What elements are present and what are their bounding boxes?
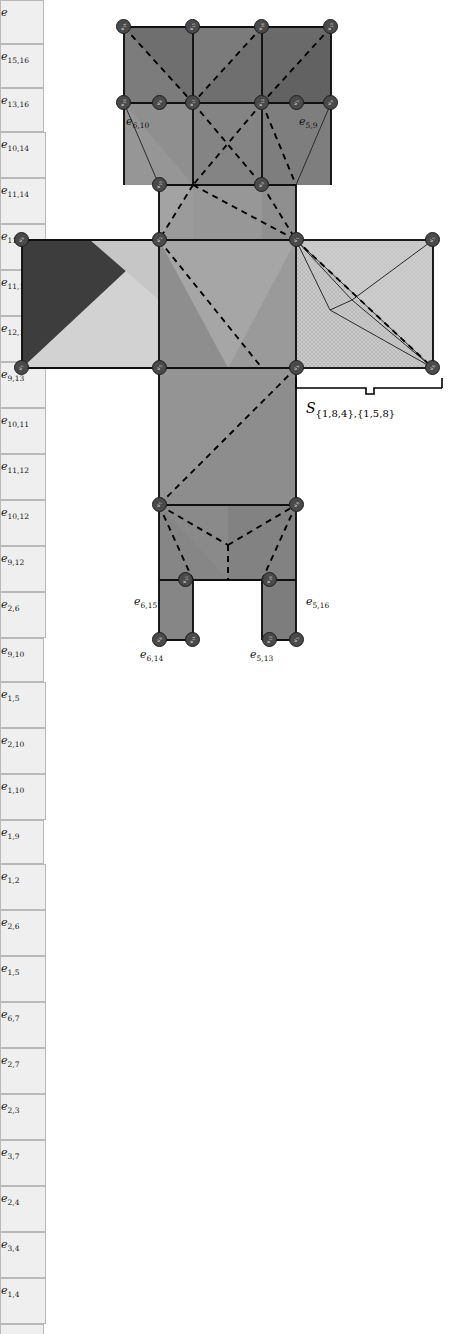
vertex-label: v8 xyxy=(429,365,437,370)
edge-label: e1,8 xyxy=(1,1330,19,1334)
edge-label-flat: e5,13 xyxy=(250,648,273,663)
vertex-node[interactable]: v5 xyxy=(289,632,304,647)
edge-label-bubble: e3,4 xyxy=(0,1232,46,1278)
vertex-label: v9 xyxy=(327,100,335,105)
edge-label: e6,10 xyxy=(126,115,149,128)
vertex-node[interactable]: v6 xyxy=(152,632,167,647)
vertex-node[interactable]: v7 xyxy=(152,497,167,512)
edge-label-plain: e5,9 xyxy=(299,110,313,160)
edge-label: e1,2 xyxy=(1,870,19,883)
vertex-label: v16 xyxy=(258,23,266,30)
vertex-node[interactable]: v14 xyxy=(185,632,200,647)
vertex-node[interactable]: v10 xyxy=(116,95,131,110)
edge-label: e1,10 xyxy=(1,780,24,793)
vertex-node[interactable]: v8 xyxy=(289,497,304,512)
vertex-label: v10 xyxy=(120,99,128,106)
edge-label: e3,7 xyxy=(1,1146,19,1159)
vertex-label: v6 xyxy=(156,637,164,642)
edge-label-bubble: e2,4 xyxy=(0,1186,46,1232)
vertex-label: v14 xyxy=(120,23,128,30)
edge-label: e2,3 xyxy=(1,1100,19,1113)
edge-label-flat: e6,14 xyxy=(140,648,163,663)
vertex-label: v8 xyxy=(293,502,301,507)
edge-label-bubble: e1,4 xyxy=(0,1278,46,1324)
vertex-node[interactable]: v5 xyxy=(425,232,440,247)
vertex-label: v11 xyxy=(189,99,197,106)
vertex-node[interactable]: v13 xyxy=(323,19,338,34)
edge-label-bubble: e2,7 xyxy=(0,1048,46,1094)
edge-label-plain: e6,15 xyxy=(134,590,148,640)
brace-annotation-label: S{1,8,4},{1,5,8} xyxy=(306,400,395,419)
edge-label: e1,5 xyxy=(1,962,19,975)
vertex-label: v6 xyxy=(156,100,164,105)
vertex-node[interactable]: v16 xyxy=(262,572,277,587)
edge-label: e2,4 xyxy=(1,1192,19,1205)
edge-label-plain: e6,10 xyxy=(126,110,140,160)
vertex-node[interactable]: v16 xyxy=(254,19,269,34)
edge-label: e1,9 xyxy=(1,826,19,839)
vertex-node[interactable]: v4 xyxy=(289,360,304,375)
edge-label: e1,4 xyxy=(1,1284,19,1297)
edge-label-bubble: e2,10 xyxy=(0,728,46,774)
edge-label-bubble: e6,7 xyxy=(0,1002,46,1048)
vertex-label: v3 xyxy=(156,365,164,370)
vertex-node[interactable]: v10 xyxy=(152,177,167,192)
vertex-label: v10 xyxy=(156,181,164,188)
edge-label: e3,4 xyxy=(1,1238,19,1251)
edge-label: e2,7 xyxy=(1,1054,19,1067)
vertex-node[interactable]: v12 xyxy=(254,95,269,110)
vertex-node[interactable]: v5 xyxy=(289,95,304,110)
vertex-label: v13 xyxy=(327,23,335,30)
vertex-node[interactable]: v15 xyxy=(185,19,200,34)
vertex-label: v7 xyxy=(18,365,26,370)
vertex-label: v14 xyxy=(189,636,197,643)
vertex-label: v9 xyxy=(258,182,266,187)
vertex-node[interactable]: v6 xyxy=(14,232,29,247)
edge-label-plain: e5,16 xyxy=(306,590,320,640)
vertex-label: v15 xyxy=(189,23,197,30)
edge-label: e6,15 xyxy=(134,595,157,608)
edge-label-bubble: e2,3 xyxy=(0,1094,46,1140)
vertex-node[interactable]: v2 xyxy=(152,232,167,247)
brace-annotation-sub: {1,8,4},{1,5,8} xyxy=(316,408,396,419)
vertex-node[interactable]: v9 xyxy=(254,177,269,192)
brace-bracket xyxy=(294,376,450,400)
vertex-label: v4 xyxy=(293,365,301,370)
vertex-node[interactable]: v8 xyxy=(425,360,440,375)
vertex-label: v6 xyxy=(18,237,26,242)
brace-annotation-base: S xyxy=(306,400,316,416)
edge-label-bubble: e2,6 xyxy=(0,910,46,956)
vertex-node[interactable]: v6 xyxy=(152,95,167,110)
vertex-node[interactable]: v7 xyxy=(14,360,29,375)
vertex-label: v7 xyxy=(156,502,164,507)
edge-label-bubble: e1,8 xyxy=(0,1324,44,1334)
vertex-label: v5 xyxy=(293,637,301,642)
edge-label-bubble: e1,5 xyxy=(0,956,46,1002)
edge-label-bubble: e1,5 xyxy=(0,682,46,728)
vertex-label: v12 xyxy=(258,99,266,106)
edge-label: e6,7 xyxy=(1,1008,19,1021)
vertex-label: v15 xyxy=(182,576,190,583)
edge-label: e5,9 xyxy=(299,115,317,128)
vertex-node[interactable]: v14 xyxy=(116,19,131,34)
edge-label-bubble: e1,2 xyxy=(0,864,46,910)
edge-label: e2,10 xyxy=(1,734,24,747)
vertex-node[interactable]: v11 xyxy=(185,95,200,110)
vertex-node[interactable]: v15 xyxy=(178,572,193,587)
vertex-node[interactable]: v13 xyxy=(262,632,277,647)
edge-label: e5,16 xyxy=(306,595,329,608)
vertex-label: v5 xyxy=(429,237,437,242)
edge-label-bubble: e1,9 xyxy=(0,820,44,864)
vertex-node[interactable]: v3 xyxy=(152,360,167,375)
vertex-label: v5 xyxy=(293,100,301,105)
vertex-node[interactable]: v9 xyxy=(323,95,338,110)
edge-label-bubble: e1,10 xyxy=(0,774,46,820)
vertex-label: v16 xyxy=(266,576,274,583)
edge-label: e2,6 xyxy=(1,916,19,929)
edge-label: e1,5 xyxy=(1,688,19,701)
edge-label-bubble: e3,7 xyxy=(0,1140,46,1186)
vertex-node[interactable]: v1 xyxy=(289,232,304,247)
vertex-label: v1 xyxy=(293,237,301,242)
